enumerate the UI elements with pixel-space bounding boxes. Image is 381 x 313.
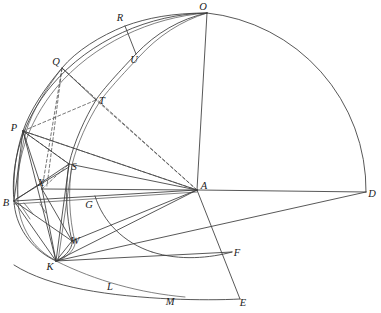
diagram-canvas: O R U Q T P S X B A D G W K L M F E [0,0,381,313]
label-O: O [199,1,207,12]
line-A-to-W [72,190,197,241]
arc-O-U-T-S-W-K [56,13,207,261]
line-A-to-E [197,190,240,299]
label-A: A [200,180,208,191]
label-M: M [165,296,176,307]
line-B-to-K [14,201,56,261]
arc-O-to-D [207,13,366,192]
label-T: T [99,95,106,106]
label-E: E [239,297,247,308]
label-R: R [116,12,124,23]
dashed-X-to-S [42,164,69,189]
label-F: F [233,247,241,258]
label-X: X [37,177,45,188]
line-K-to-D-chord [56,192,366,261]
label-B: B [3,197,10,208]
arc-O-U-T-S-W-K-companion [57,13,207,261]
label-S: S [71,161,77,172]
dashed-P-to-T [23,100,96,131]
label-K: K [45,261,54,272]
dashed-A-to-T [96,100,197,190]
line-O-to-A [197,13,207,190]
line-A-to-K [56,190,197,261]
line-B-to-A [14,190,197,201]
label-U: U [130,54,139,65]
line-P-to-K [23,131,56,261]
label-D: D [367,188,376,199]
arc-M [172,299,240,300]
label-P: P [10,122,18,133]
label-L: L [106,281,113,292]
arc-K-to-M-inner [56,261,185,297]
label-Q: Q [52,56,60,67]
line-Q-to-T [62,68,96,100]
arc-O-R-Q-P-X-K [14,13,207,196]
line-R-to-U [125,26,136,54]
label-W: W [71,235,81,246]
arc-L [14,265,172,299]
line-X-to-K [42,189,56,261]
label-G: G [85,199,93,210]
line-A-to-D [197,190,366,192]
arc-G [95,196,152,252]
line-K-to-F-chord [56,252,232,261]
geometry-diagram: O R U Q T P S X B A D G W K L M F E [0,0,381,313]
